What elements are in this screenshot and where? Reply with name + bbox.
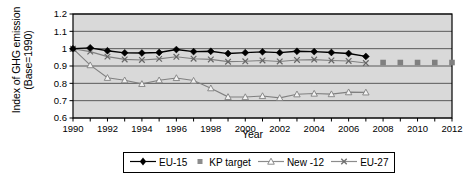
y-tick-label: 0.9	[54, 60, 67, 71]
data-point-marker	[380, 60, 386, 66]
legend-key-eu15-line-diamond-icon	[130, 156, 156, 169]
x-axis-title: Year	[0, 128, 465, 140]
y-tick-label: 1	[62, 43, 67, 54]
legend-label-eu15: EU-15	[159, 157, 187, 168]
legend-label-kp-target: KP target	[209, 157, 251, 168]
legend-item-eu27: EU-27	[331, 156, 388, 169]
legend-key-new12-line-triangle-icon	[258, 156, 284, 169]
x-axis-title-text: Year	[242, 128, 263, 140]
legend-key-eu27-line-cross-icon	[331, 156, 357, 169]
chart-legend: EU-15 KP target New -12 EU-27	[123, 152, 395, 173]
legend-label-eu27: EU-27	[360, 157, 388, 168]
legend-item-new12: New -12	[258, 156, 324, 169]
chart-container: Index of GHG emission (Base=1990) 1.21.1…	[0, 0, 465, 183]
legend-item-eu15: EU-15	[130, 156, 187, 169]
y-tick-label: 0.6	[54, 112, 67, 123]
y-tick-label: 0.7	[54, 95, 67, 106]
data-point-marker	[449, 60, 455, 66]
y-tick-label: 1.2	[54, 8, 67, 19]
data-point-marker	[415, 60, 421, 66]
data-point-marker	[398, 60, 404, 66]
y-tick-label: 1.1	[54, 26, 67, 37]
data-point-marker	[432, 60, 438, 66]
legend-label-new12: New -12	[287, 157, 324, 168]
legend-key-kp-square-icon	[194, 156, 206, 169]
legend-item-kp-target: KP target	[194, 156, 251, 169]
y-tick-label: 0.8	[54, 78, 67, 89]
